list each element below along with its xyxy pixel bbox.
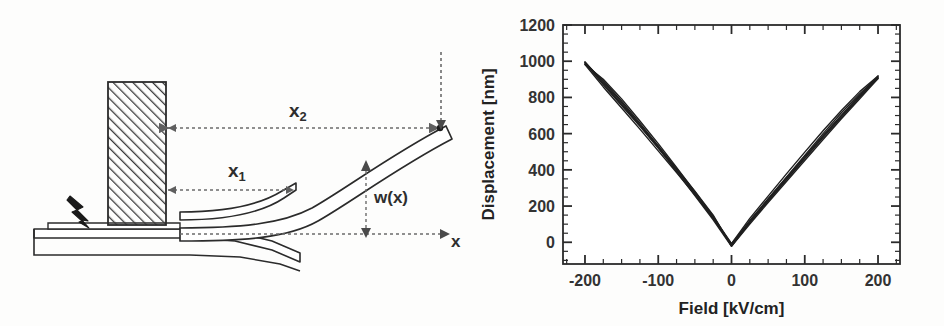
figure-root: x2 x1 w(x) x -200-1000100200020040060080… — [0, 0, 944, 326]
dimension-x2 — [168, 124, 443, 132]
x-tick-label: 0 — [727, 272, 736, 289]
label-x1: x1 — [228, 160, 246, 184]
y-tick-label: 600 — [528, 126, 555, 143]
cantilever-diagram-panel: x2 x1 w(x) x — [0, 0, 472, 326]
label-x2: x2 — [289, 100, 307, 124]
dimension-x1 — [168, 186, 294, 194]
x-tick-label: -200 — [569, 272, 601, 289]
y-tick-label: 400 — [528, 162, 555, 179]
label-x1-base: x — [228, 160, 239, 181]
displacement-field-chart-svg: -200-1000100200020040060080010001200Fiel… — [472, 0, 944, 326]
x-tick-label: 100 — [791, 272, 818, 289]
plot-frame — [563, 25, 900, 264]
x-tick-label: -100 — [642, 272, 674, 289]
y-tick-label: 800 — [528, 89, 555, 106]
y-tick-label: 1200 — [519, 17, 555, 34]
y-tick-label: 0 — [546, 234, 555, 251]
x-tick-label: 200 — [865, 272, 892, 289]
chart-plot-layer: -200-1000100200020040060080010001200Fiel… — [479, 17, 900, 318]
label-x2-base: x — [289, 100, 300, 121]
label-x2-sub: 2 — [300, 109, 307, 124]
tip-indicator-arrow — [436, 52, 446, 130]
cantilever-beam — [180, 126, 452, 241]
y-axis-title: Displacement [nm] — [479, 68, 498, 220]
label-x-axis: x — [451, 232, 460, 252]
y-tick-label: 1000 — [519, 53, 555, 70]
label-x1-sub: 1 — [239, 169, 246, 184]
x-axis-title: Field [kV/cm] — [679, 299, 785, 318]
displacement-field-chart-panel: -200-1000100200020040060080010001200Fiel… — [472, 0, 944, 326]
label-deflection-wx: w(x) — [374, 188, 408, 208]
hatched-block — [108, 82, 166, 225]
y-tick-label: 200 — [528, 198, 555, 215]
